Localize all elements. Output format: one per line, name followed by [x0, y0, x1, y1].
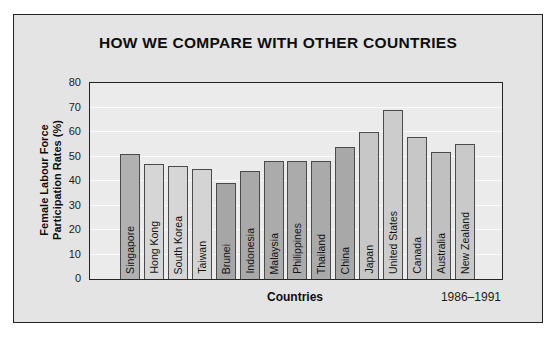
- bar-label-south-korea: South Korea: [173, 216, 184, 274]
- y-tick-label-50: 50: [69, 150, 81, 162]
- bar-label-hong-kong: Hong Kong: [149, 221, 160, 274]
- bar-indonesia: Indonesia: [240, 171, 260, 279]
- bar-singapore: Singapore: [120, 154, 140, 279]
- bar-label-thailand: Thailand: [316, 234, 327, 274]
- bar-label-japan: Japan: [364, 245, 375, 274]
- bar-label-singapore: Singapore: [125, 226, 136, 274]
- y-tick-label-30: 30: [69, 199, 81, 211]
- bar-hong-kong: Hong Kong: [144, 164, 164, 279]
- bar-taiwan: Taiwan: [192, 169, 212, 279]
- bar-japan: Japan: [359, 132, 379, 279]
- y-tick-label-60: 60: [69, 125, 81, 137]
- y-tick-label-10: 10: [69, 248, 81, 260]
- bar-brunei: Brunei: [216, 183, 236, 279]
- plot-area: SingaporeHong KongSouth KoreaTaiwanBrune…: [89, 82, 503, 280]
- y-tick-label-0: 0: [75, 272, 81, 284]
- chart-frame: HOW WE COMPARE WITH OTHER COUNTRIES Fema…: [13, 14, 543, 323]
- bar-australia: Australia: [431, 152, 451, 279]
- page: HOW WE COMPARE WITH OTHER COUNTRIES Fema…: [0, 0, 557, 338]
- bar-label-australia: Australia: [436, 233, 447, 274]
- y-axis-ticks: 01020304050607080: [14, 82, 85, 278]
- bar-label-malaysia: Malaysia: [268, 233, 279, 274]
- bar-label-united-states: United States: [388, 211, 399, 274]
- bar-south-korea: South Korea: [168, 166, 188, 279]
- bar-label-brunei: Brunei: [220, 244, 231, 274]
- bar-new-zealand: New Zealand: [455, 144, 475, 279]
- period-note: 1986–1991: [441, 290, 501, 304]
- bar-united-states: United States: [383, 110, 403, 279]
- bar-thailand: Thailand: [311, 161, 331, 279]
- bar-malaysia: Malaysia: [264, 161, 284, 279]
- chart-title: HOW WE COMPARE WITH OTHER COUNTRIES: [14, 34, 542, 52]
- y-tick-label-20: 20: [69, 223, 81, 235]
- y-tick-label-40: 40: [69, 174, 81, 186]
- bar-china: China: [335, 147, 355, 279]
- bar-label-taiwan: Taiwan: [197, 241, 208, 274]
- x-axis-title: Countries: [89, 290, 501, 304]
- bar-label-philippines: Philippines: [292, 223, 303, 274]
- bar-label-new-zealand: New Zealand: [460, 212, 471, 274]
- bar-canada: Canada: [407, 137, 427, 279]
- bar-philippines: Philippines: [287, 161, 307, 279]
- bar-label-indonesia: Indonesia: [244, 228, 255, 274]
- bar-label-china: China: [340, 247, 351, 274]
- y-tick-label-70: 70: [69, 101, 81, 113]
- bars-container: SingaporeHong KongSouth KoreaTaiwanBrune…: [90, 83, 502, 279]
- bar-label-canada: Canada: [412, 237, 423, 274]
- y-tick-label-80: 80: [69, 76, 81, 88]
